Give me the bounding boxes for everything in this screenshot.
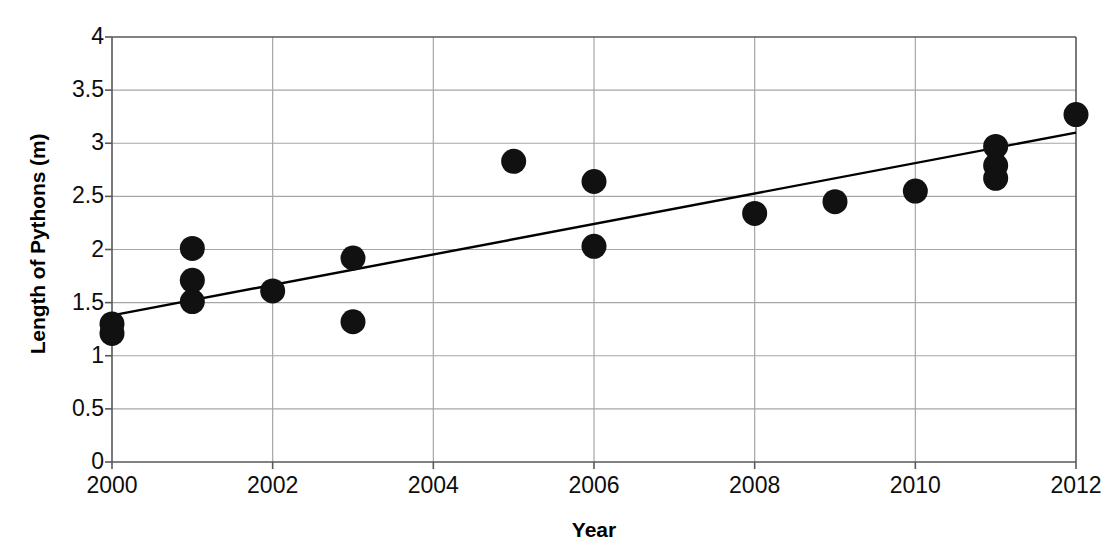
x-axis-title: Year [112,518,1076,542]
plot-area [0,0,1117,555]
scatter-chart: Length of Pythons (m) 00.511.522.533.54 … [0,0,1117,555]
